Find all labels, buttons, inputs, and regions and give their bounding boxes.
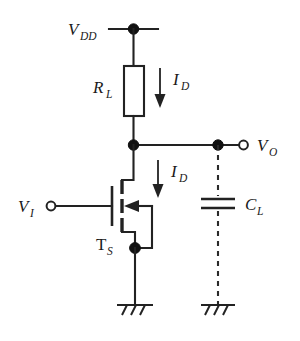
input-label-subscript: I — [29, 207, 35, 219]
load-resistor-label-subscript: L — [105, 88, 112, 100]
drain-current-mid-arrow-head — [153, 184, 164, 198]
ground-capacitor — [201, 305, 235, 315]
drain-current-top-arrow — [155, 68, 166, 108]
drain-current-top-label: I D — [172, 70, 190, 92]
nmos-transistor — [112, 180, 152, 253]
load-capacitor-branch — [201, 145, 235, 305]
input-net — [47, 202, 112, 211]
drain-current-top-label-subscript: D — [180, 80, 190, 92]
transistor-label: T S — [96, 235, 113, 257]
input-terminal-circle[interactable] — [47, 202, 56, 211]
ground-capacitor-hatch-2 — [214, 305, 219, 315]
transistor-bulk-lead — [135, 206, 152, 248]
ground-capacitor-hatch-3 — [223, 305, 228, 315]
drain-current-mid-label: I D — [170, 162, 188, 184]
load-resistor-label-symbol: R — [92, 78, 104, 97]
ground-source-hatch-3 — [140, 305, 145, 315]
drain-current-mid-label-symbol: I — [170, 162, 178, 181]
drain-current-top-label-symbol: I — [172, 70, 180, 89]
load-capacitor-label: C L — [245, 195, 263, 217]
output-label-subscript: O — [269, 146, 278, 158]
load-capacitor-label-subscript: L — [256, 205, 263, 217]
circuit-diagram: V DD R L I D V O I D — [0, 0, 300, 341]
drain-current-mid-label-subscript: D — [178, 172, 188, 184]
output-label: V O — [257, 136, 278, 158]
supply-label-subscript: DD — [79, 30, 97, 42]
ground-capacitor-hatch-1 — [205, 305, 210, 315]
load-capacitor-label-symbol: C — [245, 195, 257, 214]
supply-label: V DD — [68, 20, 97, 42]
resistor-branch — [124, 29, 144, 145]
output-net — [128, 140, 248, 150]
ground-source-hatch-2 — [131, 305, 136, 315]
drain-current-mid-arrow — [153, 160, 164, 198]
drain-current-top-arrow-head — [155, 94, 166, 108]
load-resistor-label: R L — [92, 78, 112, 100]
output-terminal-circle[interactable] — [239, 141, 248, 150]
load-resistor-body — [124, 66, 144, 116]
ground-source-hatch-1 — [122, 305, 127, 315]
transistor-label-subscript: S — [107, 245, 113, 257]
transistor-bulk-arrow-head — [124, 200, 139, 212]
input-label: V I — [18, 197, 35, 219]
ground-source — [117, 305, 153, 315]
transistor-label-symbol: T — [96, 235, 107, 254]
